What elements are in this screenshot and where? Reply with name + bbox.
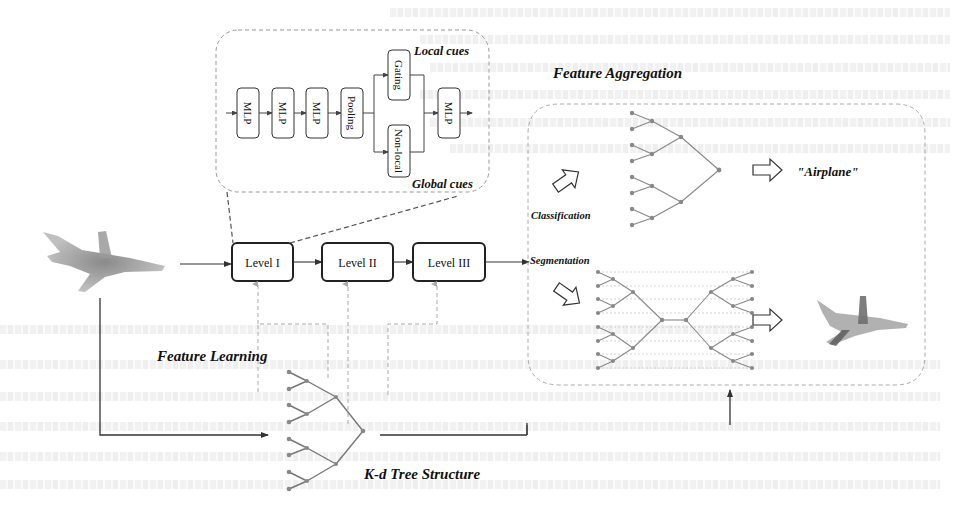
inset-block-mlp-1: MLP xyxy=(237,88,259,138)
svg-text:Level III: Level III xyxy=(428,256,470,270)
inset-block-gating: Gating xyxy=(388,50,410,100)
svg-text:Non-local: Non-local xyxy=(393,129,405,173)
segmented-airplane-point-cloud-icon xyxy=(817,296,908,346)
level-iii-box: Level III xyxy=(413,243,485,281)
feature-aggregation-label: Feature Aggregation xyxy=(552,65,682,81)
svg-text:MLP: MLP xyxy=(311,102,323,125)
classification-tree-icon xyxy=(630,111,722,227)
segmentation-label: Segmentation xyxy=(530,255,590,266)
inset-block-non-local: Non-local xyxy=(388,125,410,177)
feature-aggregation-box xyxy=(528,104,925,385)
svg-text:Level I: Level I xyxy=(245,256,279,270)
svg-text:MLP: MLP xyxy=(242,102,254,125)
architecture-diagram: MLP MLP MLP Pooling Gating Non-local xyxy=(0,0,954,515)
local-cues-label: Local cues xyxy=(413,44,469,58)
inset-block-mlp-2: MLP xyxy=(272,88,294,138)
hollow-arrow-icon xyxy=(753,309,782,331)
kd-tree-icon xyxy=(287,370,366,492)
svg-text:MLP: MLP xyxy=(443,102,455,125)
svg-text:Gating: Gating xyxy=(393,60,405,90)
hollow-arrow-icon xyxy=(753,159,782,181)
level-i-box: Level I xyxy=(232,243,293,281)
kd-tree-to-level-connectors xyxy=(258,284,437,424)
classification-label: Classification xyxy=(531,210,591,221)
svg-text:Level II: Level II xyxy=(338,256,376,270)
airplane-point-cloud-icon xyxy=(43,231,165,292)
output-class-label: "Airplane" xyxy=(797,164,858,179)
inset-block-mlp-3: MLP xyxy=(306,88,328,138)
svg-text:Pooling: Pooling xyxy=(346,96,358,131)
hollow-arrow-icon xyxy=(550,278,586,312)
inset-block-mlp-final: MLP xyxy=(438,88,460,138)
feature-learning-label: Feature Learning xyxy=(156,348,268,364)
svg-text:MLP: MLP xyxy=(277,102,289,125)
segmentation-tree-icon xyxy=(596,270,754,370)
global-cues-label: Global cues xyxy=(412,177,473,191)
hollow-arrow-icon xyxy=(549,163,585,197)
level-detail-inset: MLP MLP MLP Pooling Gating Non-local xyxy=(216,30,489,243)
level-ii-box: Level II xyxy=(322,243,393,281)
inset-block-pooling: Pooling xyxy=(341,88,363,138)
kd-tree-structure-label: K-d Tree Structure xyxy=(363,466,480,482)
